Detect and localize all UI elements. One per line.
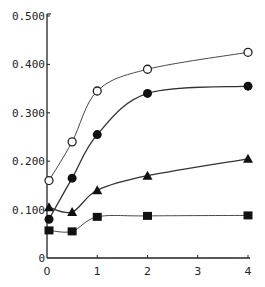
filled-circle-marker [143, 89, 152, 98]
y-tick-label: 0.100 [12, 204, 45, 217]
y-tick-label: 0 [38, 252, 45, 265]
x-tick-label: 3 [194, 265, 201, 278]
open-circle-marker [45, 177, 53, 185]
series-markers [44, 48, 253, 235]
x-tick-label: 4 [245, 265, 252, 278]
y-tick-label: 0.200 [12, 155, 45, 168]
filled-square-marker [68, 227, 77, 235]
filled-circle-marker [45, 215, 54, 224]
filled-circle-marker [93, 130, 102, 139]
open-circle-marker [244, 48, 252, 56]
open-circle-marker [144, 65, 152, 73]
filled-triangle-marker [243, 154, 253, 163]
y-tick-label: 0.500 [12, 10, 45, 23]
series-lines [49, 52, 248, 232]
y-tick-label: 0.400 [12, 58, 45, 71]
open-circle-marker [93, 87, 101, 95]
open-circle-marker [68, 138, 76, 146]
filled-triangle-line [49, 159, 248, 213]
filled-square-marker [143, 212, 152, 220]
line-chart: 00.1000.2000.3000.4000.50001234 [0, 0, 265, 287]
y-tick-label: 0.300 [12, 107, 45, 120]
filled-triangle-marker [92, 185, 102, 194]
axes: 00.1000.2000.3000.4000.50001234 [12, 10, 252, 278]
x-tick-label: 0 [44, 265, 51, 278]
x-tick-label: 1 [94, 265, 101, 278]
filled-square-marker [93, 213, 102, 221]
filled-triangle-marker [67, 207, 77, 216]
filled-triangle-marker [44, 202, 54, 211]
filled-circle-marker [68, 174, 77, 183]
filled-circle-marker [244, 82, 253, 91]
x-tick-label: 2 [144, 265, 151, 278]
filled-square-marker [244, 211, 253, 219]
filled-circle-line [49, 86, 248, 219]
filled-square-marker [45, 226, 54, 234]
